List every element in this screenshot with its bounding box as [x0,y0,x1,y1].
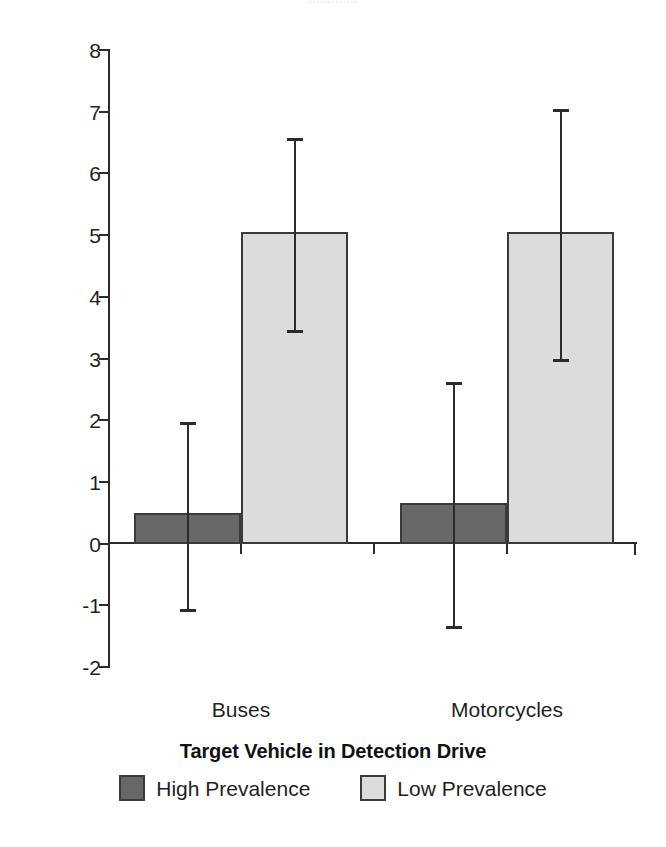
error-bar-cap-lower [180,609,196,612]
y-tick-label: 2 [89,410,101,431]
plot-area: 876543210-1-2 [108,50,637,667]
legend-item-high-prevalence[interactable]: High Prevalence [119,775,310,801]
y-tick-label: 5 [89,225,101,246]
y-tick-label: 6 [89,163,101,184]
legend-label: Low Prevalence [397,778,546,799]
y-tick-label: 0 [89,533,101,554]
x-tick-mid [373,544,375,554]
category-label-motorcycles: Motorcycles [451,699,563,720]
error-bar-cap-upper [446,382,462,385]
y-tick-label: 8 [89,40,101,61]
error-bar-cap-upper [553,109,569,112]
error-bar-cap-lower [553,359,569,362]
error-bar-cap-lower [446,626,462,629]
legend-swatch-icon [360,775,386,801]
error-bar-stem [453,383,455,627]
error-bar-stem [187,423,189,610]
error-bar-cap-upper [287,138,303,141]
y-tick-label: 4 [89,286,101,307]
legend-label: High Prevalence [156,778,310,799]
clipped-top-text: ............. [0,0,666,3]
legend-swatch-icon [119,775,145,801]
x-tick-buses [240,544,242,554]
y-tick-label: 7 [89,101,101,122]
legend: High PrevalenceLow Prevalence [0,775,666,801]
x-axis-end-cap [634,542,636,555]
x-tick-motorcycles [506,544,508,554]
y-tick-label: -2 [82,657,101,678]
error-bar-stem [560,110,562,360]
error-bar-cap-lower [287,330,303,333]
error-bar-cap-upper [180,422,196,425]
y-tick-label: 3 [89,348,101,369]
y-tick-label: -1 [82,595,101,616]
x-axis-title: Target Vehicle in Detection Drive [0,740,666,763]
y-tick-label: 1 [89,471,101,492]
category-label-buses: Buses [212,699,270,720]
figure-container: ............. 876543210-1-2 BusesMotorcy… [0,0,666,847]
y-axis-line [108,50,110,667]
legend-item-low-prevalence[interactable]: Low Prevalence [360,775,546,801]
error-bar-stem [294,139,296,330]
